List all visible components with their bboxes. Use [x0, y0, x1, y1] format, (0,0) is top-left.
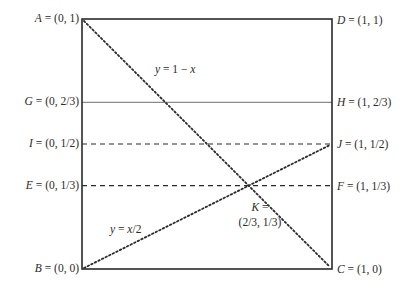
equals-sign: = [36, 95, 43, 107]
point-j-coords: (1, 1/2) [354, 138, 388, 150]
var-x: x [190, 63, 195, 75]
line-y-equals-x-over-2 [84, 145, 330, 268]
label-point-i: I = (0, 1/2) [29, 138, 79, 150]
point-c-coords: (1, 0) [357, 263, 382, 275]
point-k-letter: K [251, 201, 259, 213]
equals-sign: = [347, 180, 354, 192]
equals-sign: = [348, 14, 355, 26]
point-b-letter: B [35, 262, 42, 274]
equals-sign: = [345, 138, 352, 150]
point-d-letter: D [337, 14, 345, 26]
equation-text: = [115, 223, 127, 235]
equals-sign: = [36, 137, 43, 149]
equals-sign: = [45, 262, 52, 274]
point-a-coords: (0, 1) [54, 12, 79, 24]
point-k-name-line: K = [228, 200, 292, 215]
point-a-letter: A [35, 12, 42, 24]
label-point-f: F = (1, 1/3) [337, 181, 390, 193]
equals-sign: = [262, 201, 269, 213]
point-e-letter: E [26, 179, 33, 191]
point-g-coords: (0, 2/3) [45, 95, 79, 107]
point-f-coords: (1, 1/3) [356, 180, 390, 192]
label-point-d: D = (1, 1) [337, 15, 382, 27]
label-point-a: A = (0, 1) [35, 13, 79, 25]
point-d-coords: (1, 1) [358, 14, 383, 26]
label-point-k: K = (2/3, 1/3) [228, 200, 292, 230]
point-g-letter: G [25, 95, 33, 107]
equation-text: = 1 − [160, 63, 190, 75]
point-f-letter: F [337, 180, 344, 192]
equals-sign: = [348, 96, 355, 108]
label-point-b: B = (0, 0) [35, 263, 79, 275]
label-point-e: E = (0, 1/3) [26, 180, 79, 192]
label-line-y-equals-1-minus-x: y = 1 − x [155, 64, 195, 76]
point-e-coords: (0, 1/3) [45, 179, 79, 191]
equation-tail: /2 [132, 223, 141, 235]
equals-sign: = [36, 179, 43, 191]
equals-sign: = [348, 263, 355, 275]
equals-sign: = [45, 12, 52, 24]
label-point-h: H = (1, 2/3) [337, 97, 391, 109]
label-point-j: J = (1, 1/2) [337, 139, 388, 151]
point-h-letter: H [337, 96, 345, 108]
point-j-letter: J [337, 138, 342, 150]
label-point-g: G = (0, 2/3) [25, 96, 79, 108]
point-i-coords: (0, 1/2) [45, 137, 79, 149]
point-i-letter: I [29, 137, 33, 149]
label-point-c: C = (1, 0) [337, 264, 382, 276]
label-line-y-equals-x-over-2: y = x/2 [110, 224, 141, 236]
point-h-coords: (1, 2/3) [358, 96, 392, 108]
point-c-letter: C [337, 263, 345, 275]
point-k-coords: (2/3, 1/3) [228, 215, 292, 230]
point-b-coords: (0, 0) [54, 262, 79, 274]
